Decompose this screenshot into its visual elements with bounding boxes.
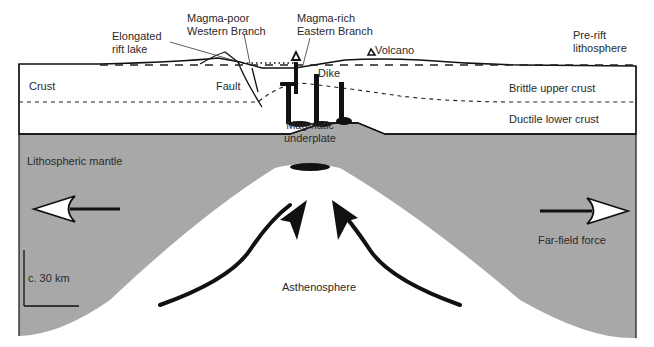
upwelling-arrowhead-left <box>280 200 307 240</box>
volcano-triangle-west <box>292 52 300 60</box>
label-line: underplate <box>280 132 340 145</box>
label-crust: Crust <box>29 80 55 93</box>
volcano-triangle-east <box>368 49 375 55</box>
label-line: Western Branch <box>187 25 266 38</box>
label-elongated-rift-lake: Elongated rift lake <box>112 30 162 56</box>
label-line: rift lake <box>112 43 162 56</box>
label-fault: Fault <box>216 80 240 93</box>
label-asthenosphere: Asthenosphere <box>282 281 356 294</box>
label-scale-bar: c. 30 km <box>28 272 70 285</box>
label-line: Magmatic <box>280 119 340 132</box>
rift-cross-section-diagram <box>0 0 654 347</box>
label-ductile-lower-crust: Ductile lower crust <box>509 113 599 126</box>
label-line: Pre-rift <box>573 29 627 42</box>
label-magma-rich-eastern-branch: Magma-rich Eastern Branch <box>297 12 373 38</box>
label-magmatic-underplate: Magmatic underplate <box>280 119 340 145</box>
eastern-branch-leader <box>303 38 310 65</box>
label-pre-rift-lithosphere: Pre-rift lithosphere <box>573 29 627 55</box>
label-volcano: Volcano <box>375 44 414 57</box>
label-line: lithosphere <box>573 42 627 55</box>
label-magma-poor-western-branch: Magma-poor Western Branch <box>187 12 266 38</box>
label-dike: Dike <box>318 67 340 80</box>
label-line: Magma-rich <box>297 12 373 25</box>
melt-lens <box>290 163 330 171</box>
label-line: Elongated <box>112 30 162 43</box>
upwelling-arrowhead-right <box>332 200 358 240</box>
label-far-field-force: Far-field force <box>538 234 606 247</box>
label-brittle-upper-crust: Brittle upper crust <box>509 82 595 95</box>
western-branch-leader <box>244 34 250 64</box>
label-line: Eastern Branch <box>297 25 373 38</box>
label-lithospheric-mantle: Lithospheric mantle <box>27 155 122 168</box>
label-line: Magma-poor <box>187 12 266 25</box>
rift-lake-leader <box>170 42 236 61</box>
